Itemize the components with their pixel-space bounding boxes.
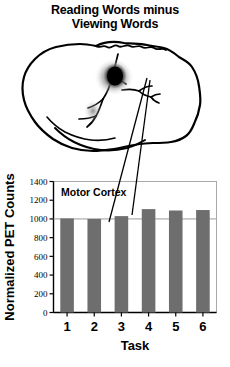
x-tick-label: 4	[145, 319, 153, 334]
figure-title-line-2: Viewing Words	[0, 17, 230, 31]
figure-title-line-1: Reading Words minus	[0, 3, 230, 17]
bar	[142, 209, 156, 312]
y-axis-ticks: 0200400600800100012001400	[30, 177, 54, 318]
x-tick-label: 6	[199, 319, 206, 334]
x-tick-label: 1	[63, 319, 70, 334]
x-axis-ticks: 123456	[63, 313, 206, 334]
bar	[60, 218, 74, 312]
bar	[196, 210, 210, 312]
y-tick-label: 400	[34, 270, 48, 280]
bar	[115, 216, 129, 312]
y-tick-label: 800	[34, 233, 48, 243]
bar-chart-panel: 0200400600800100012001400 123456 Motor C…	[0, 172, 230, 367]
y-tick-label: 600	[34, 252, 48, 262]
y-tick-label: 200	[34, 289, 48, 299]
y-tick-label: 1000	[30, 214, 49, 224]
plot-frame	[54, 182, 217, 313]
x-axis-title: Task	[121, 338, 150, 353]
x-tick-label: 5	[172, 319, 179, 334]
y-tick-label: 1200	[30, 195, 49, 205]
panel-label-motor-cortex: Motor Cortex	[61, 186, 126, 198]
brain-image-panel	[0, 32, 230, 172]
y-axis-title: Normalized PET Counts	[2, 173, 17, 320]
bar	[169, 211, 183, 313]
normalized-pet-counts-chart: 0200400600800100012001400 123456 Motor C…	[0, 172, 230, 367]
y-tick-label: 0	[43, 308, 48, 318]
brain-lateral-view	[0, 32, 230, 172]
figure-title: Reading Words minus Viewing Words	[0, 3, 230, 31]
bar	[87, 219, 101, 313]
x-tick-label: 2	[91, 319, 98, 334]
y-tick-label: 1400	[30, 177, 49, 187]
x-tick-label: 3	[118, 319, 125, 334]
